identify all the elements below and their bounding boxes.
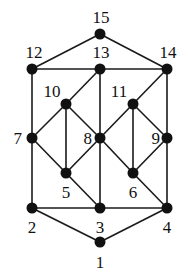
node-9 — [162, 133, 173, 144]
node-label-2: 2 — [28, 218, 37, 237]
edge-4-1 — [100, 208, 167, 242]
edge-2-1 — [32, 208, 100, 242]
edge-9-6 — [133, 138, 167, 173]
node-11 — [128, 99, 139, 110]
node-label-8: 8 — [84, 129, 93, 148]
node-label-10: 10 — [44, 82, 61, 101]
node-label-9: 9 — [152, 129, 161, 148]
node-2 — [27, 203, 38, 214]
edge-13-10 — [66, 69, 100, 104]
node-1 — [95, 237, 106, 248]
node-5 — [61, 168, 72, 179]
edge-15-14 — [100, 34, 167, 69]
node-label-5: 5 — [62, 183, 71, 202]
node-label-7: 7 — [14, 129, 23, 148]
node-label-6: 6 — [129, 183, 138, 202]
node-label-1: 1 — [96, 253, 105, 272]
node-label-15: 15 — [93, 8, 110, 27]
node-15 — [95, 29, 106, 40]
edge-6-4 — [133, 173, 167, 208]
node-13 — [95, 64, 106, 75]
node-12 — [27, 64, 38, 75]
edge-11-9 — [133, 104, 167, 138]
node-4 — [162, 203, 173, 214]
edge-14-11 — [133, 69, 167, 104]
node-label-14: 14 — [160, 43, 178, 62]
node-label-11: 11 — [111, 82, 127, 101]
edge-5-3 — [66, 173, 100, 208]
edge-11-8 — [100, 104, 133, 138]
node-3 — [95, 203, 106, 214]
node-label-3: 3 — [96, 218, 105, 237]
node-label-13: 13 — [93, 43, 110, 62]
edge-7-5 — [32, 138, 66, 173]
node-10 — [61, 99, 72, 110]
node-6 — [128, 168, 139, 179]
graph-diagram: 123456789101112131415 — [0, 0, 188, 276]
edge-10-7 — [32, 104, 66, 138]
edge-8-6 — [100, 138, 133, 173]
node-label-12: 12 — [26, 43, 43, 62]
node-7 — [27, 133, 38, 144]
node-8 — [95, 133, 106, 144]
node-label-4: 4 — [163, 218, 172, 237]
node-14 — [162, 64, 173, 75]
